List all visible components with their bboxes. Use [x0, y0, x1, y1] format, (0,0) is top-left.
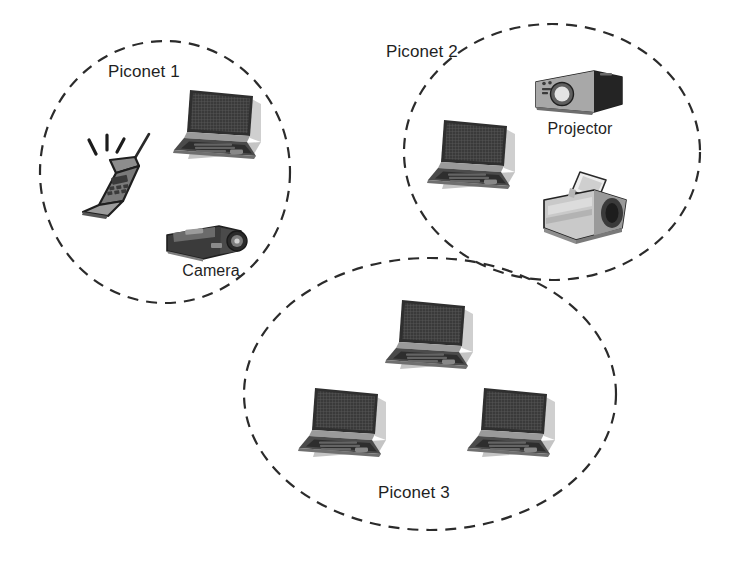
laptop-icon [422, 110, 522, 198]
laptop-icon [168, 80, 268, 168]
printer-icon [536, 166, 634, 248]
mobile-phone-icon [66, 128, 164, 220]
piconet-1-label: Piconet 1 [108, 62, 180, 82]
piconet-3-label: Piconet 3 [378, 483, 450, 503]
camera-icon [163, 215, 255, 263]
projector-label: Projector [528, 120, 632, 138]
laptop-icon [462, 378, 562, 466]
laptop-icon [380, 290, 480, 378]
projector-icon [528, 66, 628, 120]
piconet-diagram: Piconet 1CameraPiconet 2ProjectorPiconet… [0, 0, 733, 563]
piconet-2-label: Piconet 2 [386, 42, 458, 62]
camera-label: Camera [163, 262, 259, 280]
laptop-icon [293, 378, 393, 466]
